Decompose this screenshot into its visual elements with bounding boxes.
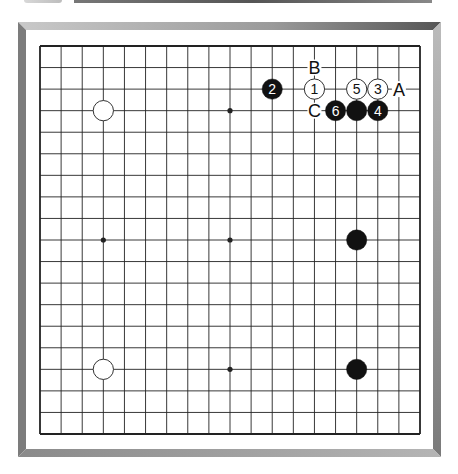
- move-number-2: 2: [268, 81, 276, 97]
- white-stone: [93, 101, 113, 121]
- black-stone: [347, 101, 367, 121]
- go-board: BAC123456: [0, 0, 458, 474]
- move-number-6: 6: [332, 103, 340, 119]
- marker-label-a: A: [393, 80, 405, 100]
- move-number-5: 5: [353, 81, 361, 97]
- star-point: [101, 237, 106, 242]
- white-stone: [93, 359, 113, 379]
- black-stone: [347, 230, 367, 250]
- move-number-3: 3: [374, 81, 382, 97]
- star-point: [227, 108, 232, 113]
- marker-label-b: B: [308, 58, 320, 78]
- move-number-4: 4: [374, 103, 382, 119]
- marker-label-c: C: [308, 101, 321, 121]
- star-point: [227, 237, 232, 242]
- black-stone: [347, 359, 367, 379]
- star-point: [227, 367, 232, 372]
- move-number-1: 1: [311, 81, 319, 97]
